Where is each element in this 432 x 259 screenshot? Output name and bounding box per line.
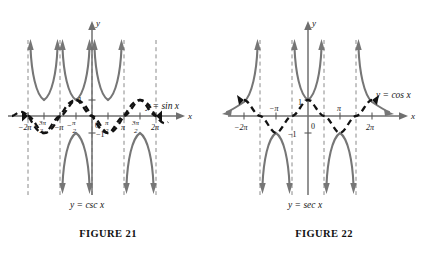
figure-22-svg: −2π −π 0 π 2π 1 −1 x y y = cos x y = sec… — [216, 10, 432, 215]
figure-22-panel: −2π −π 0 π 2π 1 −1 x y y = cos x y = sec… — [216, 0, 432, 259]
figure-22-xtick-pi: π — [337, 104, 342, 113]
figure-22-plot-area: −2π −π 0 π 2π 1 −1 x y y = cos x y = sec… — [216, 10, 432, 215]
figure-22-origin-label: 0 — [311, 122, 315, 131]
figure-22-base-curve-label: y = cos x — [375, 90, 411, 100]
figure-21-caption: FIGURE 21 — [0, 228, 216, 239]
figure-21-base-curve-label: y = sin x — [145, 101, 180, 111]
figure-21-y-axis-name: y — [95, 18, 100, 28]
figure-21-ytick--1: −1 — [96, 130, 105, 139]
figure-22-xtick--2pi: −2π — [234, 123, 248, 132]
figure-21-xtick--pi-2: −π2 — [67, 119, 77, 135]
figure-21-x-axis-name: x — [187, 111, 192, 121]
figure-21-plot-area: −2π −3π2 −π −π2 0 π2 π 3π2 — [0, 10, 216, 215]
figure-22-xtick--pi: −π — [269, 104, 279, 113]
figure-21-origin-label: 0 — [95, 121, 99, 130]
figure-22-caption: FIGURE 22 — [216, 228, 432, 239]
figure-21-recip-curve-label: y = csc x — [69, 200, 105, 210]
figure-21-ytick-1: 1 — [78, 96, 82, 105]
figure-21-xtick-3pi-2: 3π2 — [131, 119, 140, 135]
figure-page: −2π −3π2 −π −π2 0 π2 π 3π2 — [0, 0, 432, 259]
figure-22-recip-curve-label: y = sec x — [287, 200, 323, 210]
figure-22-ytick-1: 1 — [298, 98, 302, 107]
figure-22-x-axis-name: x — [410, 111, 415, 121]
figure-22-y-axis — [304, 21, 312, 195]
figure-21-xtick--2pi: −2π — [18, 123, 32, 132]
figure-22-y-axis-name: y — [311, 18, 316, 28]
figure-21-xtick-pi-2: π2 — [105, 119, 109, 135]
figure-21-svg: −2π −3π2 −π −π2 0 π2 π 3π2 — [0, 10, 216, 215]
figure-21-xtick-pi: π — [121, 123, 126, 132]
figure-21-xtick--pi: −π — [54, 123, 64, 132]
figure-22-ytick--1: −1 — [288, 130, 297, 139]
figure-21-xtick-2pi: 2π — [151, 123, 160, 132]
figure-21-panel: −2π −3π2 −π −π2 0 π2 π 3π2 — [0, 0, 216, 259]
figure-22-x-axis — [228, 112, 408, 120]
figure-22-xtick-2pi: 2π — [366, 123, 375, 132]
